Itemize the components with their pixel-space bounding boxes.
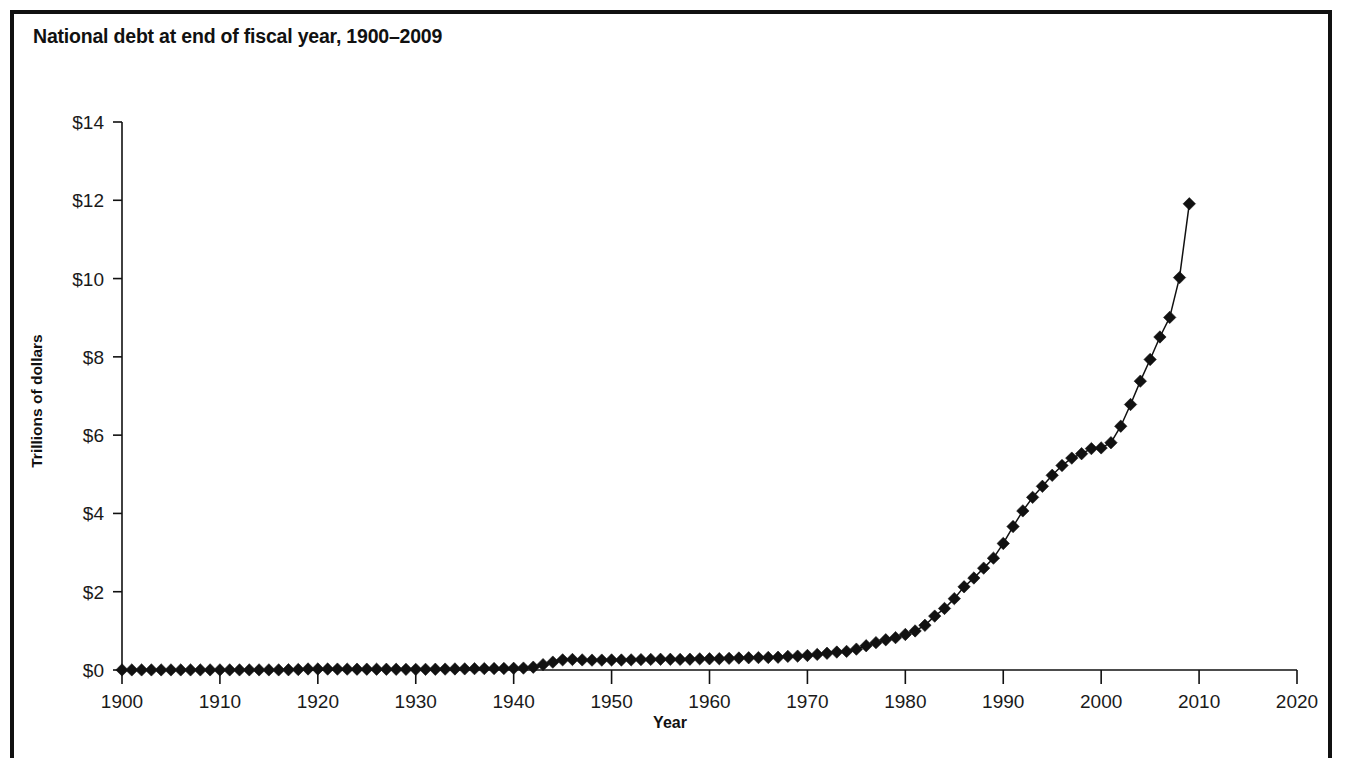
y-axis-title: Trillions of dollars [28,301,46,501]
chart-title: National debt at end of fiscal year, 190… [33,25,442,48]
x-axis-title: Year [610,714,730,732]
figure-border [10,10,1332,758]
